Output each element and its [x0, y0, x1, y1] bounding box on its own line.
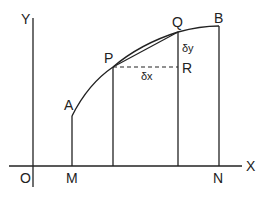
origin-label: O [20, 171, 31, 185]
y-axis-label: Y [21, 12, 30, 26]
point-label-r: R [182, 61, 192, 75]
chord-pq [113, 32, 178, 67]
point-label-a: A [64, 98, 73, 112]
point-label-m: M [66, 171, 78, 185]
x-axis-label: X [246, 159, 255, 173]
delta-y-label: δy [182, 43, 194, 54]
point-label-b: B [214, 11, 223, 25]
point-label-q: Q [172, 15, 183, 29]
delta-x-label: δx [141, 71, 153, 82]
diagram-drawing [0, 0, 266, 198]
diagram-canvas: Y X O M N A P Q B R δy δx [0, 0, 266, 198]
point-label-n: N [213, 171, 223, 185]
point-label-p: P [104, 51, 113, 65]
